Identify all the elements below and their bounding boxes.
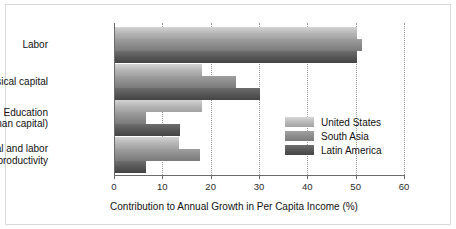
bar	[115, 51, 357, 63]
legend-label: South Asia	[321, 131, 369, 142]
bar	[115, 137, 179, 149]
bar	[115, 124, 180, 136]
x-tick-label: 20	[196, 181, 226, 192]
x-axis-title: Contribution to Annual Growth in Per Cap…	[6, 201, 456, 212]
x-tick	[356, 175, 357, 179]
legend-swatch	[285, 117, 314, 127]
x-tick-label: 60	[389, 181, 419, 192]
bar	[115, 39, 362, 51]
legend-label: Latin America	[321, 145, 382, 156]
x-tick-label: 50	[341, 181, 371, 192]
bar	[115, 76, 236, 88]
chart-figure: 0102030405060 LaborPhysical capitalEduca…	[0, 0, 456, 229]
bar	[115, 112, 146, 124]
bar	[115, 161, 146, 173]
category-label-line: productivity	[0, 155, 48, 167]
category-label-line: Capital and labor	[0, 143, 48, 155]
legend-swatch	[285, 131, 314, 141]
x-tick	[211, 175, 212, 179]
category-label: Physical capital	[0, 76, 48, 88]
x-tick	[307, 175, 308, 179]
legend-item[interactable]: Latin America	[285, 144, 405, 156]
legend-label: United States	[321, 117, 381, 128]
bar	[115, 149, 200, 161]
legend-swatch	[285, 145, 314, 155]
x-tick	[162, 175, 163, 179]
chart-legend: United StatesSouth AsiaLatin America	[285, 116, 405, 158]
legend-item[interactable]: South Asia	[285, 130, 405, 142]
bar	[115, 27, 357, 39]
x-tick-label: 40	[292, 181, 322, 192]
category-label: Labor	[0, 39, 48, 51]
x-tick-label: 0	[99, 181, 129, 192]
bar	[115, 64, 202, 76]
x-tick	[114, 175, 115, 179]
category-label-line: Physical capital	[0, 76, 48, 88]
x-tick-label: 10	[147, 181, 177, 192]
x-tick	[259, 175, 260, 179]
legend-item[interactable]: United States	[285, 116, 405, 128]
chart-frame: 0102030405060 LaborPhysical capitalEduca…	[5, 4, 451, 225]
category-label-line: (human capital)	[0, 118, 48, 130]
category-label-line: Education	[0, 107, 48, 119]
bar	[115, 88, 260, 100]
category-label-line: Labor	[0, 39, 48, 51]
bar	[115, 100, 202, 112]
x-tick-label: 30	[244, 181, 274, 192]
x-tick	[404, 175, 405, 179]
category-label: Education(human capital)	[0, 107, 48, 130]
category-label: Capital and laborproductivity	[0, 143, 48, 166]
